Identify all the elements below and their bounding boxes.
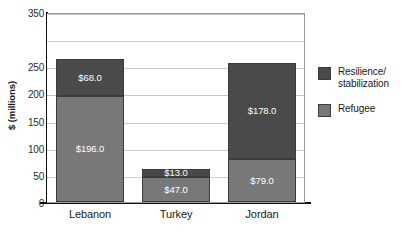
x-axis-category-label: Turkey: [126, 208, 226, 220]
bar-segment-value-label: $47.0: [164, 184, 187, 195]
legend-swatch-icon: [318, 67, 331, 80]
bar-segment: $79.0: [228, 159, 296, 202]
plot-area: $196.0$68.0$47.0$13.0$79.0$178.0: [47, 13, 305, 203]
bar-segment-value-label: $68.0: [78, 72, 101, 83]
bar-segment: $47.0: [142, 177, 210, 203]
bar-segment: $68.0: [56, 59, 124, 96]
stacked-bar-chart: $ (millions) 050100150200250350 $196.0$6…: [0, 0, 402, 245]
legend-label: Refugee: [338, 103, 375, 115]
bar-group: $196.0$68.0: [56, 12, 124, 202]
bar-segment-value-label: $79.0: [250, 175, 273, 186]
bar-group: $79.0$178.0: [228, 12, 296, 202]
y-axis-tick-label: 50: [14, 170, 44, 181]
y-axis-tick-label: 350: [14, 8, 44, 19]
bar-segment-value-label: $13.0: [164, 167, 187, 178]
y-axis-tick-label: 100: [14, 143, 44, 154]
bar-series-container: $196.0$68.0$47.0$13.0$79.0$178.0: [47, 14, 304, 202]
bar-segment: $178.0: [228, 63, 296, 160]
bar-segment-value-label: $196.0: [76, 143, 104, 154]
x-axis-category-label: Lebanon: [40, 208, 140, 220]
y-axis-tick-label: 200: [14, 89, 44, 100]
legend-item[interactable]: Resilience/ stabilization: [318, 66, 400, 89]
legend-swatch-icon: [318, 104, 331, 117]
legend-item[interactable]: Refugee: [318, 103, 400, 117]
bar-segment-value-label: $178.0: [248, 105, 276, 116]
y-axis-tick-label: 250: [14, 62, 44, 73]
bar-segment: $13.0: [142, 169, 210, 176]
bar-group: $47.0$13.0: [142, 12, 210, 202]
legend-label: Resilience/ stabilization: [338, 66, 400, 89]
bar-segment: $196.0: [56, 96, 124, 202]
x-axis-category-label: Jordan: [212, 208, 312, 220]
y-axis-tick-label: 150: [14, 116, 44, 127]
chart-legend: Resilience/ stabilizationRefugee: [318, 66, 400, 131]
